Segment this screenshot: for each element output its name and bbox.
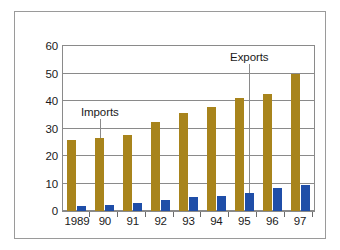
bar-group-92 xyxy=(151,46,170,211)
bar-group-96 xyxy=(263,46,282,211)
x-axis: 19899091929394959697 xyxy=(63,215,314,233)
x-tick-label-94: 94 xyxy=(210,215,222,227)
bar-imports-94 xyxy=(207,107,216,212)
bar-exports-95 xyxy=(245,193,254,211)
bar-imports-91 xyxy=(123,135,132,211)
x-tick-label-97: 97 xyxy=(294,215,306,227)
bar-exports-90 xyxy=(105,205,114,211)
annotation-leader-imports xyxy=(100,119,101,138)
y-tick-label-50: 50 xyxy=(28,68,58,80)
y-tick-label-0: 0 xyxy=(28,205,58,217)
bar-imports-97 xyxy=(291,74,300,212)
bar-exports-92 xyxy=(161,200,170,211)
bar-imports-93 xyxy=(179,113,188,211)
bar-exports-96 xyxy=(273,188,282,211)
y-axis: 0102030405060 xyxy=(25,45,58,212)
bar-exports-1989 xyxy=(77,206,86,211)
x-tick-label-90: 90 xyxy=(99,215,111,227)
x-tick-label-96: 96 xyxy=(266,215,278,227)
y-tick-label-30: 30 xyxy=(28,123,58,135)
annotation-label-exports: Exports xyxy=(230,51,268,63)
bar-imports-1989 xyxy=(67,140,76,212)
bar-group-94 xyxy=(207,46,226,211)
bar-group-95 xyxy=(235,46,254,211)
bar-group-91 xyxy=(123,46,142,211)
x-tick-label-95: 95 xyxy=(238,215,250,227)
annotation-label-imports: Imports xyxy=(81,106,119,118)
y-tick-label-60: 60 xyxy=(28,40,58,52)
bar-imports-96 xyxy=(263,94,272,211)
figure-frame: 0102030405060 19899091929394959697 Impor… xyxy=(14,11,326,239)
bar-group-97 xyxy=(291,46,310,211)
bar-imports-95 xyxy=(235,98,244,211)
bar-exports-93 xyxy=(189,197,198,211)
y-tick-label-10: 10 xyxy=(28,178,58,190)
bar-group-93 xyxy=(179,46,198,211)
bar-group-1989 xyxy=(67,46,86,211)
x-tick-label-1989: 1989 xyxy=(65,215,90,227)
y-tick-label-20: 20 xyxy=(28,150,58,162)
bar-group-90 xyxy=(95,46,114,211)
bar-exports-91 xyxy=(133,203,142,211)
x-tick-label-93: 93 xyxy=(182,215,194,227)
x-tick-label-92: 92 xyxy=(154,215,166,227)
bar-imports-90 xyxy=(95,138,104,211)
bar-imports-92 xyxy=(151,122,160,211)
y-tick-label-40: 40 xyxy=(28,95,58,107)
annotation-leader-exports xyxy=(249,64,250,193)
bar-exports-94 xyxy=(217,196,226,211)
x-tick-label-91: 91 xyxy=(127,215,139,227)
bar-exports-97 xyxy=(301,185,310,211)
